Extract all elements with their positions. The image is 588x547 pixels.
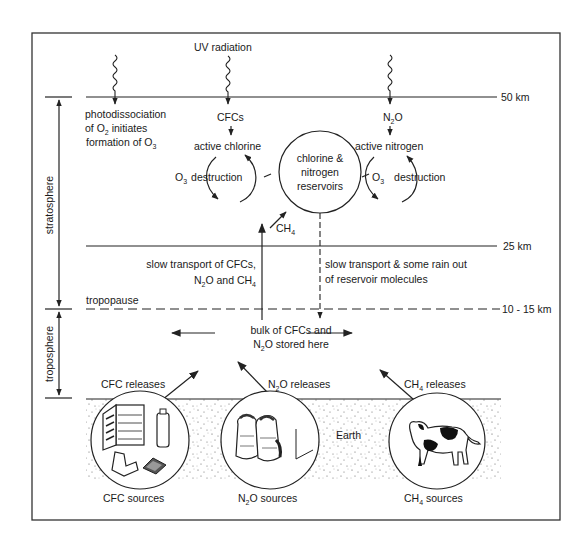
ch4-sources-circle [389, 393, 485, 489]
ch4-sources-label: CH4 sources [404, 492, 463, 506]
slow-transport-down-line1: slow transport & some rain out [325, 258, 467, 270]
altitude-label-25km: 25 km [503, 240, 532, 252]
reservoir-line2: nitrogen [301, 166, 339, 178]
ch4-input-label: CH4 [276, 222, 295, 236]
n2o-label: N2O [383, 111, 403, 125]
slow-transport-down-line2: of reservoir molecules [325, 273, 428, 285]
earth-label: Earth [336, 429, 361, 441]
refrigerator-icon [103, 405, 144, 450]
cfc-release-arrow [162, 371, 198, 400]
slow-transport-up-line1: slow transport of CFCs, [146, 258, 256, 270]
altitude-label-tropopause: 10 - 15 km [502, 303, 552, 315]
reservoir-to-chlorine-link [264, 174, 271, 177]
cfc-releases-label: CFC releases [101, 378, 165, 390]
active-chlorine-label: active chlorine [194, 140, 261, 152]
storage-line1: bulk of CFCs and [250, 324, 331, 336]
stratosphere-label: stratosphere [43, 176, 55, 235]
troposphere-label: troposphere [43, 326, 55, 382]
chlorine-o3-destruction: O3destruction [175, 171, 243, 185]
reservoir-line1: chlorine & [297, 152, 344, 164]
n2o-releases-label: N2O releases [268, 378, 330, 392]
storage-line2: N2O stored here [253, 338, 329, 352]
tropopause-label: tropopause [86, 294, 139, 306]
active-nitrogen-label: active nitrogen [355, 140, 423, 152]
cfc-sources-circle [91, 391, 189, 489]
n2o-release-arrow [238, 362, 268, 393]
ch4-releases-label: CH4 releases [404, 378, 466, 392]
n2o-sources-label: N2O sources [238, 492, 297, 506]
slow-transport-up-line2: N2O and CH4 [194, 274, 256, 288]
nitrogen-o3-destruction: O3destruction [372, 171, 446, 185]
photodissociation-line3: formation of O3 [86, 136, 157, 150]
aerosol-can-icon [157, 409, 169, 447]
reservoir-line3: reservoirs [297, 180, 343, 192]
ozone-diagram: 50 km 25 km 10 - 15 km tropopause strato… [0, 0, 588, 547]
photodissociation-line2: of O2 initiates [85, 122, 147, 136]
photodissociation-line1: photodissociation [85, 108, 166, 120]
altitude-label-50km: 50 km [501, 91, 530, 103]
cfcs-label: CFCs [217, 111, 244, 123]
cfc-sources-label: CFC sources [103, 492, 164, 504]
uv-radiation-label: UV radiation [194, 41, 252, 53]
n2o-sources-circle [221, 391, 319, 489]
